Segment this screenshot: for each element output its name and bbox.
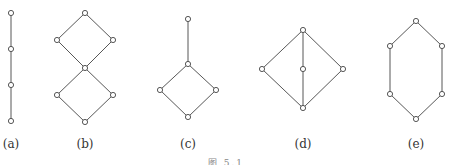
lattice-panel-e — [387, 18, 444, 121]
edge — [416, 21, 442, 46]
node — [185, 16, 190, 21]
edge — [390, 21, 416, 46]
panel-label-d: (d) — [294, 137, 311, 151]
node — [213, 87, 218, 92]
node — [8, 118, 13, 123]
edge — [188, 64, 216, 90]
node — [300, 27, 305, 32]
edge — [85, 13, 113, 40]
lattice-panel-a — [8, 10, 13, 123]
edge — [85, 40, 113, 68]
node — [387, 91, 392, 96]
panel-label-b: (b) — [76, 137, 93, 151]
edge — [416, 94, 442, 119]
node — [8, 46, 13, 51]
edge — [390, 94, 416, 119]
node — [185, 114, 190, 119]
node — [110, 37, 115, 42]
node — [259, 66, 264, 71]
node — [387, 43, 392, 48]
edge — [85, 68, 113, 95]
node — [82, 119, 87, 124]
node — [413, 18, 418, 23]
node — [340, 66, 345, 71]
panel-label-e: (e) — [408, 137, 424, 151]
node — [300, 66, 305, 71]
edge — [160, 90, 188, 117]
panel-label-a: (a) — [3, 137, 20, 151]
edge — [85, 95, 113, 122]
edge — [262, 69, 303, 108]
node — [185, 61, 190, 66]
edge — [188, 90, 216, 117]
lattice-panel-b — [54, 10, 115, 124]
edge — [57, 95, 85, 122]
panel-label-c: (c) — [180, 137, 196, 151]
node — [8, 82, 13, 87]
node — [413, 116, 418, 121]
lattice-panel-d — [259, 27, 345, 110]
edge — [160, 64, 188, 90]
node — [54, 37, 59, 42]
node — [300, 105, 305, 110]
edge — [57, 68, 85, 95]
node — [157, 87, 162, 92]
node — [82, 65, 87, 70]
node — [439, 43, 444, 48]
node — [439, 91, 444, 96]
edge — [262, 30, 303, 69]
edge — [303, 30, 343, 69]
edge — [57, 40, 85, 68]
lattice-diagrams — [0, 0, 450, 165]
edge — [303, 69, 343, 108]
node — [8, 10, 13, 15]
node — [110, 92, 115, 97]
figure-caption: 图 5.1 — [208, 156, 244, 165]
node — [54, 92, 59, 97]
node — [82, 10, 87, 15]
lattice-panel-c — [157, 16, 218, 119]
edge — [57, 13, 85, 40]
